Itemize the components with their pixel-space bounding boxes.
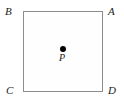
interior-point-label: P <box>59 53 65 63</box>
vertex-label-b: B <box>5 6 12 17</box>
vertex-label-d: D <box>108 85 116 96</box>
geometry-figure: B A C D P <box>0 0 124 104</box>
vertex-label-a: A <box>108 6 115 17</box>
vertex-label-c: C <box>6 85 13 96</box>
